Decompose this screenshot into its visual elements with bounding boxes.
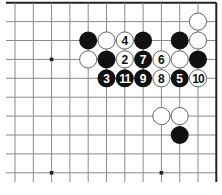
white-stone-icon bbox=[189, 32, 206, 49]
white-stone-icon bbox=[189, 13, 206, 30]
move-number-label: 5 bbox=[176, 72, 183, 86]
black-stone bbox=[171, 32, 189, 50]
black-stone bbox=[79, 32, 97, 50]
go-board-diagram: 427631198510 bbox=[0, 0, 222, 195]
black-stone-move-11: 11 bbox=[116, 69, 134, 87]
black-stone bbox=[171, 126, 189, 144]
white-stone bbox=[153, 108, 170, 125]
black-stone-icon bbox=[171, 32, 189, 50]
move-number-label: 6 bbox=[158, 53, 165, 67]
white-stone bbox=[189, 32, 206, 49]
move-number-label: 2 bbox=[121, 53, 128, 67]
black-stone-icon bbox=[189, 50, 207, 68]
black-stone-icon bbox=[79, 32, 97, 50]
star-point bbox=[50, 171, 54, 175]
black-stone-move-7: 7 bbox=[134, 50, 152, 68]
white-stone bbox=[98, 32, 115, 49]
move-number-label: 11 bbox=[119, 72, 131, 86]
white-stone-icon bbox=[153, 108, 170, 125]
black-stone bbox=[98, 50, 116, 68]
white-stone-move-4: 4 bbox=[116, 32, 133, 49]
white-stone bbox=[171, 108, 188, 125]
black-stone-move-5: 5 bbox=[171, 69, 189, 87]
white-stone bbox=[80, 51, 97, 68]
black-stone-icon bbox=[98, 50, 116, 68]
move-number-label: 9 bbox=[140, 72, 147, 86]
white-stone bbox=[189, 13, 206, 30]
black-stone-move-9: 9 bbox=[134, 69, 152, 87]
white-stone bbox=[171, 51, 188, 68]
white-stone-icon bbox=[98, 32, 115, 49]
move-number-label: 3 bbox=[103, 72, 110, 86]
white-stone-icon bbox=[80, 51, 97, 68]
black-stone-icon bbox=[171, 126, 189, 144]
board-grid bbox=[6, 3, 216, 182]
move-number-label: 10 bbox=[192, 72, 205, 86]
black-stone bbox=[134, 32, 152, 50]
black-stone-move-3: 3 bbox=[98, 69, 116, 87]
white-stone-icon bbox=[171, 108, 188, 125]
move-number-label: 7 bbox=[140, 53, 147, 67]
star-point bbox=[160, 171, 164, 175]
move-number-label: 8 bbox=[158, 72, 165, 86]
black-stone bbox=[189, 50, 207, 68]
white-stone-icon bbox=[171, 51, 188, 68]
white-stone-move-6: 6 bbox=[153, 51, 170, 68]
star-point bbox=[50, 58, 54, 62]
white-stone-move-10: 10 bbox=[189, 70, 206, 87]
black-stone-icon bbox=[134, 32, 152, 50]
white-stone-move-2: 2 bbox=[116, 51, 133, 68]
move-number-label: 4 bbox=[121, 34, 128, 48]
white-stone-move-8: 8 bbox=[153, 70, 170, 87]
